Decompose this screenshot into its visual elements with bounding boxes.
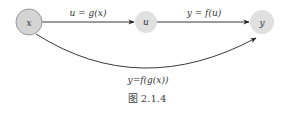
edge-x-to-y-curve [36, 34, 256, 68]
node-x-label: x [26, 18, 31, 28]
edge-label-composite: y=f(g(x)) [127, 75, 169, 85]
node-u-label: u [143, 17, 149, 27]
node-x: x [16, 9, 42, 35]
node-y: y [250, 10, 274, 34]
edge-label-g: u = g(x) [70, 8, 107, 18]
edge-label-f: y = f(u) [186, 8, 222, 18]
figure-caption: 图 2.1.4 [128, 93, 167, 104]
node-y-label: y [258, 18, 265, 28]
node-u: u [135, 11, 157, 33]
composite-function-diagram: x u y u = g(x) y = f(u) y=f(g(x)) 图 2.1.… [0, 0, 288, 114]
